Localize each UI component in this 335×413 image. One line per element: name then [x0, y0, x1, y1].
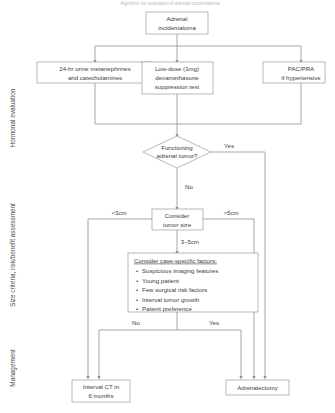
interval-ct-line-2: 6 months	[88, 392, 113, 399]
consider-tumor-size-node: Consider tumor size	[152, 209, 203, 230]
pac-pra-node: PAC/PRA if hypertensive	[263, 62, 325, 83]
case-factors-item-1-label: Suspicious imaging features	[142, 267, 218, 274]
case-factors-item-5: •	[136, 305, 138, 312]
urine-metanephrines-line-1: 24-hr urine metanephrines	[59, 65, 130, 72]
figure-header-caption: Algorithm for evaluation of adrenal inci…	[120, 1, 220, 6]
case-factors-title: Consider case-specific factors:	[134, 257, 217, 264]
adrenalectomy-node: Adrenalectomy	[226, 380, 289, 395]
edge-label-size-mid: 3–5cm	[181, 238, 199, 245]
swimlane-size-text: Size criteria, risk/benefit assessment	[9, 203, 16, 307]
tumor-size-line-2: tumor size	[163, 221, 192, 228]
dexamethasone-line-2: dexamethasone	[155, 74, 199, 81]
flowchart-diagram: Algorithm for evaluation of adrenal inci…	[0, 0, 335, 413]
edge-label-factors-no: No	[132, 319, 140, 326]
adrenalectomy-line-1: Adrenalectomy	[237, 384, 279, 391]
edge-label-factors-yes: Yes	[209, 319, 219, 326]
adrenal-incidentaloma-line-2: incidentaloma	[158, 24, 196, 31]
swimlane-management-text: Management	[9, 349, 17, 387]
edge-label-functioning-no: No	[185, 183, 193, 190]
functioning-tumor-decision-node: Functioning adrenal tumor?	[143, 136, 211, 168]
case-factors-item-2: •	[136, 277, 138, 284]
dexamethasone-line-3: suppression test	[155, 83, 200, 90]
adrenal-incidentaloma-node: Adrenal incidentaloma	[146, 12, 208, 34]
case-factors-item-1: •	[136, 267, 138, 274]
pac-pra-line-1: PAC/PRA	[288, 65, 315, 72]
swimlane-hormonal-text: Hormonal evaluation	[9, 88, 16, 147]
dexamethasone-line-1: Low-dose (1mg)	[155, 65, 199, 72]
urine-metanephrines-node: 24-hr urine metanephrines and catecholam…	[37, 62, 153, 83]
urine-metanephrines-line-2: and catecholamines	[68, 74, 122, 81]
interval-ct-line-1: Interval CT in	[83, 383, 119, 390]
edge-label-size-large: >5cm	[223, 209, 238, 216]
functioning-tumor-line-2: adrenal tumor?	[157, 152, 199, 159]
case-factors-item-4-label: Interval tumor growth	[142, 296, 199, 303]
functioning-tumor-line-1: Functioning	[161, 144, 193, 151]
case-factors-item-3-label: Few surgical risk factors	[142, 286, 207, 293]
case-factors-item-5-label: Patient preference	[142, 305, 192, 312]
tumor-size-line-1: Consider	[165, 212, 189, 219]
case-factors-item-4: •	[136, 296, 138, 303]
swimlane-label-management: Management	[9, 349, 17, 387]
dexamethasone-suppression-node: Low-dose (1mg) dexamethasone suppression…	[142, 62, 213, 94]
adrenal-incidentaloma-line-1: Adrenal	[166, 15, 187, 22]
edge-label-size-small: <3cm	[111, 209, 126, 216]
swimlane-label-hormonal: Hormonal evaluation	[9, 88, 16, 147]
case-specific-factors-node: Consider case-specific factors: • Suspic…	[128, 253, 258, 312]
case-factors-item-3: •	[136, 286, 138, 293]
edge-label-functioning-yes: Yes	[224, 142, 234, 149]
swimlane-label-size: Size criteria, risk/benefit assessment	[9, 203, 16, 307]
interval-ct-node: Interval CT in 6 months	[72, 380, 130, 402]
pac-pra-line-2: if hypertensive	[281, 74, 321, 81]
case-factors-item-2-label: Young patient	[142, 277, 179, 284]
